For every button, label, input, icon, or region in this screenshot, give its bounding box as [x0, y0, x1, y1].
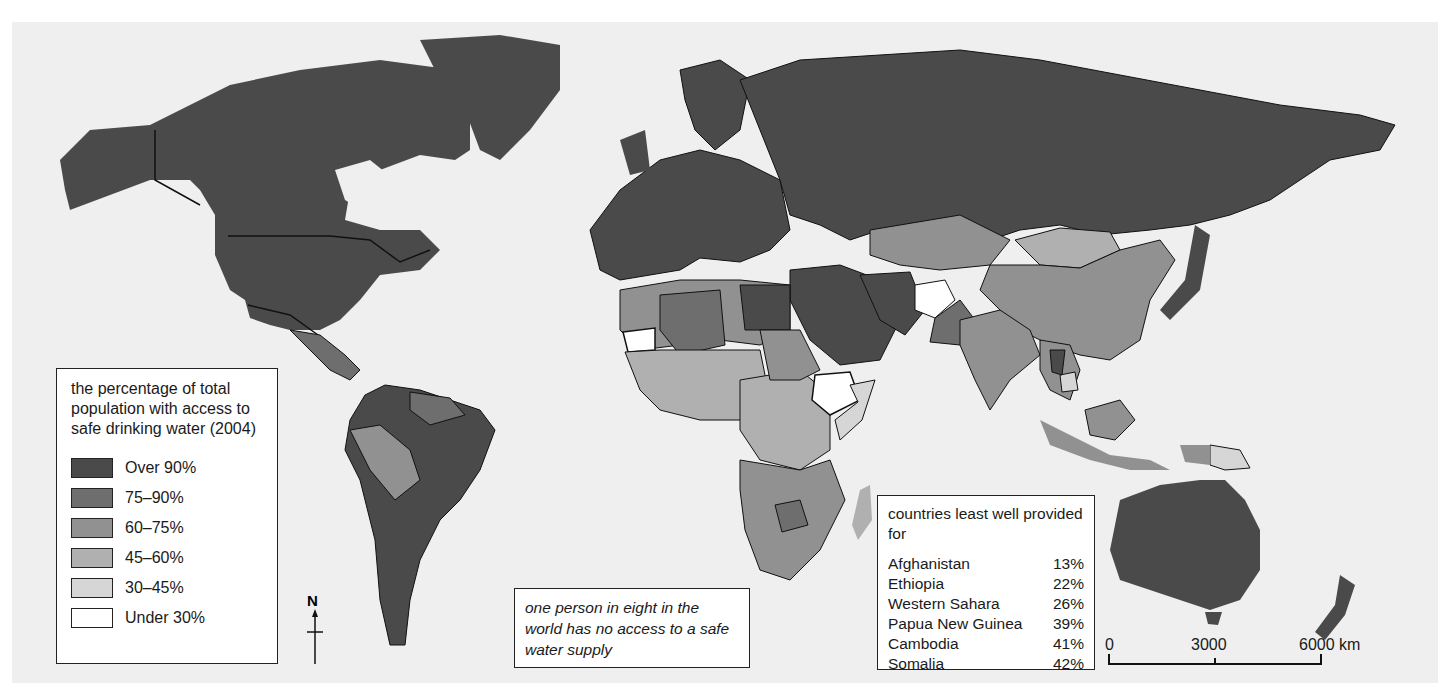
country-value: 26% — [1053, 594, 1084, 614]
legend-item-30-45: 30–45% — [71, 573, 263, 603]
least-provided-row: Papua New Guinea 39% — [888, 614, 1084, 634]
legend-label: 75–90% — [125, 489, 184, 507]
country-value: 22% — [1053, 574, 1084, 594]
country-name: Cambodia — [888, 634, 959, 654]
legend-label: 60–75% — [125, 519, 184, 537]
least-provided-row: Somalia 42% — [888, 654, 1084, 674]
least-provided-title: countries least well provided for — [888, 504, 1084, 544]
callout-box: one person in eight in the world has no … — [514, 588, 750, 668]
region-south-america — [345, 385, 495, 645]
region-europe — [590, 150, 790, 280]
legend-swatch — [71, 578, 113, 598]
legend-title: the percentage of total population with … — [71, 379, 263, 439]
country-value: 42% — [1053, 654, 1084, 674]
region-madagascar — [852, 485, 872, 540]
legend-label: 45–60% — [125, 549, 184, 567]
region-thailand — [1050, 350, 1065, 375]
country-name: Western Sahara — [888, 594, 1000, 614]
country-name: Somalia — [888, 654, 944, 674]
north-arrow-icon — [304, 592, 328, 666]
region-western-sahara — [623, 328, 655, 352]
least-provided-row: Cambodia 41% — [888, 634, 1084, 654]
region-cambodia — [1060, 372, 1078, 392]
north-arrow: N — [304, 592, 328, 666]
legend-item-60-75: 60–75% — [71, 513, 263, 543]
legend-swatch — [71, 518, 113, 538]
least-provided-row: Western Sahara 26% — [888, 594, 1084, 614]
scale-bar-line — [1103, 636, 1393, 676]
least-provided-box: countries least well provided for Afghan… — [877, 495, 1095, 670]
legend-swatch — [71, 608, 113, 628]
country-name: Afghanistan — [888, 554, 970, 574]
legend-box: the percentage of total population with … — [56, 368, 278, 664]
country-name: Papua New Guinea — [888, 614, 1022, 634]
legend-swatch — [71, 548, 113, 568]
region-borneo — [1085, 400, 1135, 440]
region-scandinavia — [680, 60, 750, 150]
legend-item-over-90: Over 90% — [71, 453, 263, 483]
region-new-zealand — [1315, 575, 1355, 640]
least-provided-row: Ethiopia 22% — [888, 574, 1084, 594]
country-value: 41% — [1053, 634, 1084, 654]
legend-item-45-60: 45–60% — [71, 543, 263, 573]
country-value: 39% — [1053, 614, 1084, 634]
country-name: Ethiopia — [888, 574, 944, 594]
legend-swatch — [71, 458, 113, 478]
least-provided-row: Afghanistan 13% — [888, 554, 1084, 574]
region-russia — [740, 50, 1395, 245]
legend-label: Under 30% — [125, 609, 205, 627]
region-north-america — [60, 60, 470, 330]
legend-label: Over 90% — [125, 459, 196, 477]
legend-item-75-90: 75–90% — [71, 483, 263, 513]
scale-bar: 0 3000 6000 km — [1103, 636, 1393, 676]
region-australia — [1110, 480, 1260, 610]
region-egypt — [740, 285, 790, 330]
region-papua-new-guinea — [1210, 445, 1250, 470]
country-value: 13% — [1053, 554, 1084, 574]
region-central-america — [290, 330, 360, 380]
legend-swatch — [71, 488, 113, 508]
legend-item-under-30: Under 30% — [71, 603, 263, 633]
legend-label: 30–45% — [125, 579, 184, 597]
